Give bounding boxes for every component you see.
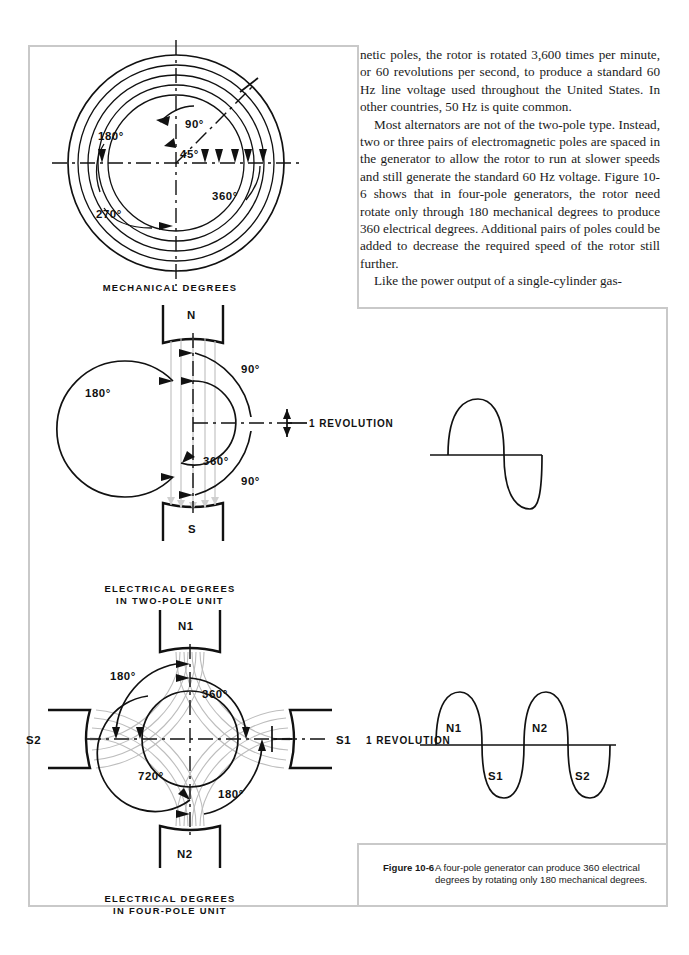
label-180: 180° <box>98 130 124 142</box>
figure-caption-label: Figure 10-6 <box>383 862 434 873</box>
pole-piece-south-2: S2 <box>26 710 90 768</box>
diagram-mechanical-degrees: 180° 270° 90° 45° 360° <box>60 48 310 288</box>
label-arc-360: 360° <box>203 455 229 467</box>
frame-edge-right <box>666 307 668 907</box>
label-one-revolution: 1 REVOLUTION <box>309 418 394 429</box>
label-pole-n1: N1 <box>178 620 194 632</box>
paragraph-3: Like the power output of a single-cylind… <box>360 272 660 289</box>
label-arc-90-upper: 90° <box>241 363 260 375</box>
arc-180 <box>57 361 173 497</box>
frame-edge-upper-right <box>357 45 359 309</box>
label-360: 360° <box>212 190 238 202</box>
arrowhead-180 <box>98 149 106 163</box>
frame-edge-middle <box>357 307 668 309</box>
frame-edge-top <box>28 45 359 47</box>
caption-two-pole-line1: ELECTRICAL DEGREES <box>40 583 300 595</box>
label-pole-n2: N2 <box>177 848 193 860</box>
label-pole-s1: S1 <box>336 734 351 746</box>
waveform-four-pole: N1 S1 N2 S2 <box>420 690 640 820</box>
revolution-marker <box>283 409 307 437</box>
label-90: 90° <box>185 118 204 130</box>
arc-arrowheads-right <box>201 149 267 163</box>
diagram-four-pole-unit: N1 N2 S2 S1 <box>30 600 420 890</box>
caption-four-pole-unit: ELECTRICAL DEGREES IN FOUR-POLE UNIT <box>40 893 300 917</box>
waveform-two-pole <box>430 395 560 515</box>
caption-four-pole-line2: IN FOUR-POLE UNIT <box>40 905 300 917</box>
caption-four-pole-line1: ELECTRICAL DEGREES <box>40 893 300 905</box>
label-270: 270° <box>96 208 122 220</box>
label-arc-180: 180° <box>85 387 111 399</box>
paragraph-1: netic poles, the rotor is rotated 3,600 … <box>360 46 660 116</box>
arrowhead-270 <box>159 222 173 230</box>
caption-mechanical-degrees: MECHANICAL DEGREES <box>40 282 300 294</box>
label-waveform-n1: N1 <box>446 722 462 734</box>
label-waveform-s1: S1 <box>488 770 503 782</box>
label-arc-90-lower: 90° <box>241 475 260 487</box>
diagram-two-pole-unit: N S 1 REVOLU <box>55 305 395 580</box>
label-pole-south: S <box>188 523 196 535</box>
paragraph-2: Most alternators are not of the two-pole… <box>360 116 660 273</box>
figure-caption: Figure 10-6 A four-pole generator can pr… <box>383 862 653 887</box>
waveform-curve-cycle-1 <box>448 399 542 509</box>
arc-arrowheads <box>159 349 195 499</box>
figure-caption-text: A four-pole generator can produce 360 el… <box>435 862 653 887</box>
label-pole-north: N <box>187 309 196 321</box>
label-arc-360: 360° <box>202 688 228 700</box>
arrowhead-45 <box>164 138 176 148</box>
label-45: 45° <box>180 148 199 160</box>
label-arc-180-upper: 180° <box>110 670 136 682</box>
label-waveform-n2: N2 <box>532 722 548 734</box>
arrowhead-90 <box>156 116 170 126</box>
label-pole-s2: S2 <box>26 734 41 746</box>
label-arc-180-lower: 180° <box>218 788 244 800</box>
body-text-column: netic poles, the rotor is rotated 3,600 … <box>360 46 660 290</box>
label-arc-720: 720° <box>138 770 164 782</box>
label-waveform-s2: S2 <box>575 770 590 782</box>
